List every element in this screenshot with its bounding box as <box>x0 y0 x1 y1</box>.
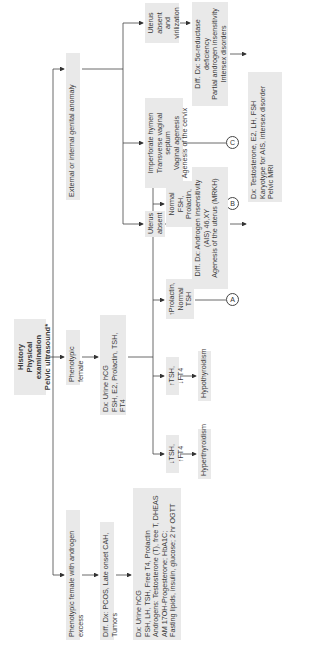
connector-c: C <box>226 136 239 149</box>
phenotypic-female-box: Phenotypic female <box>66 330 80 385</box>
result-high-tsh-box: ↑TSH, ↓FT4 <box>166 357 179 395</box>
genital-anomaly-box: External or internal genital anomaly <box>66 53 80 200</box>
androgen-dx-box: Dx: Urine hCG FSH, LH, TSH, Free T4, Pro… <box>133 488 181 640</box>
dx-tests-box: Dx: Testosterone, E2, LH, FSH Karyotype … <box>248 72 282 202</box>
androgen-diff-dx-box: Diff. Dx: PCOS, Late onset CAH, Tumors <box>100 522 114 640</box>
uterus-absent-box: Uterus absent <box>145 211 165 237</box>
hyperthyroidism-box: Hyperthyroidism <box>198 429 211 479</box>
connector-a: A <box>226 293 239 306</box>
uterus-virilization-box: Uterus absent and virilization <box>145 3 179 43</box>
result-prolactin-box: ↑Prolactin, Normal TSH <box>166 279 194 319</box>
root-box: History Physical examination Pelvic ultr… <box>14 319 46 395</box>
androgen-excess-box: Phenotypic female with androgen excess <box>66 510 80 640</box>
diff-dx-5ar-box: Diff. Dx: 5α-reductase deficiency Partia… <box>192 2 228 106</box>
imperforate-hymen-box: Imperforate hymen Transverse vaginal sep… <box>145 98 183 188</box>
flowchart-canvas: History Physical examination Pelvic ultr… <box>0 0 309 654</box>
female-dx-box: Dx: Urine hCG FSH, E2, Prolactin, TSH, F… <box>100 315 126 415</box>
hypothyroidism-box: Hypothyroidism <box>198 351 211 401</box>
diff-dx-ais-box: Diff. Dx: Androgen insensitivity (AIS) 4… <box>192 167 228 289</box>
result-low-tsh-box: ↓TSH, ↑FT4 <box>166 435 179 473</box>
